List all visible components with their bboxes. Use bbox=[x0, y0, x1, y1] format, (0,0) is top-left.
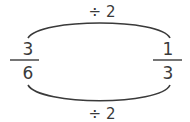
bottom-arc bbox=[28, 85, 170, 101]
left-fraction-denominator: 6 bbox=[23, 63, 34, 83]
left-fraction-numerator: 3 bbox=[23, 39, 34, 59]
equivalent-fractions-diagram: ÷ 2 ÷ 2 3 6 1 3 bbox=[0, 0, 190, 122]
diagram-svg: ÷ 2 ÷ 2 3 6 1 3 bbox=[0, 0, 190, 122]
right-fraction-denominator: 3 bbox=[163, 63, 174, 83]
top-arc bbox=[28, 23, 170, 38]
top-operation-label: ÷ 2 bbox=[89, 3, 116, 21]
bottom-operation-label: ÷ 2 bbox=[89, 105, 116, 122]
right-fraction-numerator: 1 bbox=[163, 39, 174, 59]
